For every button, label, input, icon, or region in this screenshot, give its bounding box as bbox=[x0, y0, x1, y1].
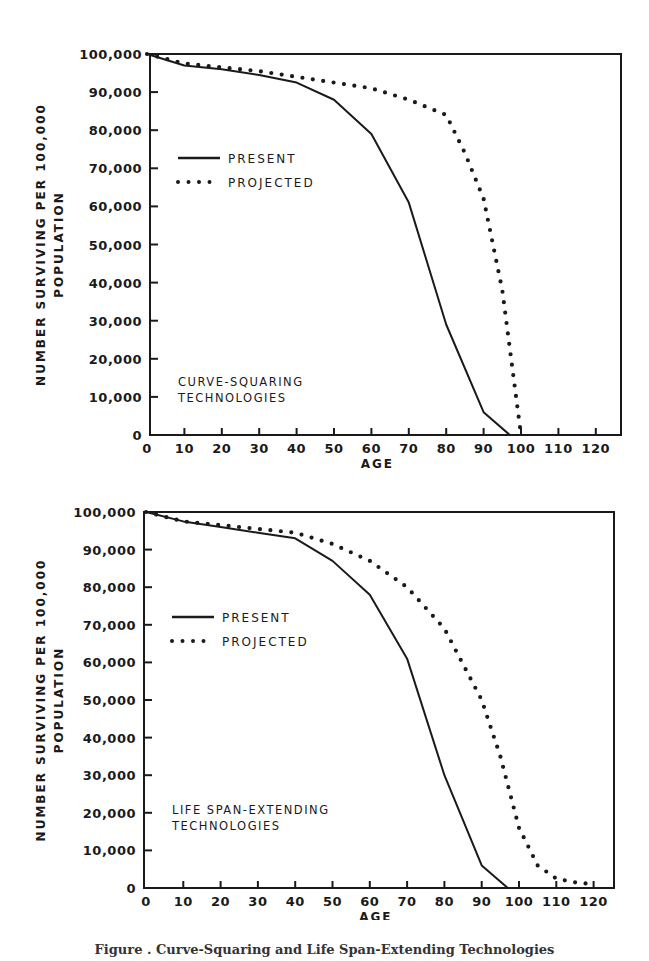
y-tick-label: 50,000 bbox=[89, 238, 142, 253]
y-tick-label: 90,000 bbox=[83, 543, 136, 558]
y-tick-label: 70,000 bbox=[89, 161, 142, 176]
chart-svg: 010,00020,00030,00040,00050,00060,00070,… bbox=[0, 460, 649, 920]
x-tick-label: 70 bbox=[398, 894, 417, 909]
x-tick-label: 120 bbox=[579, 894, 608, 909]
x-tick-label: 20 bbox=[211, 894, 230, 909]
legend-label-present: PRESENT bbox=[228, 152, 297, 166]
x-tick-label: 10 bbox=[174, 894, 193, 909]
y-tick-label: 30,000 bbox=[89, 314, 142, 329]
chart-annotation: CURVE-SQUARING bbox=[178, 375, 304, 389]
y-tick-label: 70,000 bbox=[83, 618, 136, 633]
y-axis-title: POPULATION bbox=[52, 647, 66, 753]
y-tick-label: 40,000 bbox=[83, 731, 136, 746]
x-tick-label: 50 bbox=[323, 894, 342, 909]
y-tick-label: 30,000 bbox=[83, 768, 136, 783]
chart-annotation: TECHNOLOGIES bbox=[171, 819, 281, 833]
x-tick-label: 0 bbox=[142, 441, 152, 456]
figure-caption: Figure . Curve-Squaring and Life Span-Ex… bbox=[0, 942, 649, 961]
y-tick-label: 80,000 bbox=[83, 580, 136, 595]
x-tick-label: 90 bbox=[472, 894, 491, 909]
y-tick-label: 10,000 bbox=[89, 390, 142, 405]
y-tick-label: 100,000 bbox=[79, 47, 142, 62]
y-tick-label: 10,000 bbox=[83, 843, 136, 858]
x-tick-label: 100 bbox=[505, 894, 534, 909]
legend-label-projected: PROJECTED bbox=[222, 635, 309, 649]
legend-label-projected: PROJECTED bbox=[228, 176, 315, 190]
x-tick-label: 80 bbox=[435, 894, 454, 909]
x-tick-label: 20 bbox=[212, 441, 231, 456]
x-tick-label: 120 bbox=[581, 441, 610, 456]
x-tick-label: 0 bbox=[141, 894, 151, 909]
x-tick-label: 40 bbox=[287, 441, 306, 456]
y-tick-label: 0 bbox=[132, 428, 142, 443]
legend-label-present: PRESENT bbox=[222, 611, 291, 625]
x-tick-label: 80 bbox=[437, 441, 456, 456]
y-axis-title: NUMBER SURVIVING PER 100,000 bbox=[34, 103, 48, 386]
y-tick-label: 40,000 bbox=[89, 276, 142, 291]
x-tick-label: 30 bbox=[248, 894, 267, 909]
chart-annotation: TECHNOLOGIES bbox=[177, 391, 287, 405]
chart-svg: 010,00020,00030,00040,00050,00060,00070,… bbox=[0, 0, 649, 480]
x-tick-label: 90 bbox=[474, 441, 493, 456]
x-tick-label: 50 bbox=[324, 441, 343, 456]
chart-annotation: LIFE SPAN-EXTENDING bbox=[172, 803, 330, 817]
y-tick-label: 20,000 bbox=[89, 352, 142, 367]
x-tick-label: 30 bbox=[250, 441, 269, 456]
y-tick-label: 80,000 bbox=[89, 123, 142, 138]
y-tick-label: 0 bbox=[126, 881, 136, 896]
x-tick-label: 60 bbox=[362, 441, 381, 456]
y-axis-title: NUMBER SURVIVING PER 100,000 bbox=[34, 559, 48, 842]
x-tick-label: 40 bbox=[286, 894, 305, 909]
y-tick-label: 50,000 bbox=[83, 693, 136, 708]
y-axis-title: POPULATION bbox=[52, 191, 66, 297]
y-tick-label: 100,000 bbox=[73, 505, 136, 520]
survival-chart-curve-squaring: 010,00020,00030,00040,00050,00060,00070,… bbox=[0, 0, 649, 480]
y-tick-label: 90,000 bbox=[89, 85, 142, 100]
y-tick-label: 60,000 bbox=[83, 655, 136, 670]
y-tick-label: 20,000 bbox=[83, 806, 136, 821]
y-tick-label: 60,000 bbox=[89, 199, 142, 214]
x-tick-label: 110 bbox=[544, 441, 573, 456]
x-tick-label: 10 bbox=[175, 441, 194, 456]
x-tick-label: 110 bbox=[542, 894, 571, 909]
x-axis-title: AGE bbox=[359, 910, 392, 920]
x-tick-label: 100 bbox=[507, 441, 536, 456]
x-tick-label: 60 bbox=[360, 894, 379, 909]
survival-chart-life-span-extending: 010,00020,00030,00040,00050,00060,00070,… bbox=[0, 460, 649, 920]
x-tick-label: 70 bbox=[399, 441, 418, 456]
